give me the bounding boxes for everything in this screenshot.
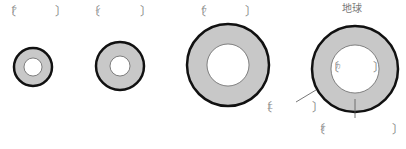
box-tag-ka: カ (335, 61, 341, 70)
bracket-close: 〕 (392, 123, 404, 137)
planet-u-diagram (187, 24, 269, 106)
bracket-close: 〕 (245, 5, 257, 19)
box-tag-e: エ (267, 101, 273, 110)
box-tag-a: ア (11, 5, 17, 14)
box-tag-u: ウ (201, 5, 207, 14)
box-tag-i: イ (95, 5, 101, 14)
planet-structure-diagram (0, 0, 406, 149)
planet-a-diagram (14, 48, 52, 86)
bracket-close: 〕 (312, 101, 324, 115)
bracket-close: 〕 (140, 5, 152, 19)
bracket-close: 〕 (373, 61, 385, 75)
box-tag-o: オ (320, 123, 326, 132)
planet-i-diagram (96, 42, 144, 90)
bracket-close: 〕 (55, 5, 67, 19)
earth-label: 地球 (342, 2, 362, 16)
